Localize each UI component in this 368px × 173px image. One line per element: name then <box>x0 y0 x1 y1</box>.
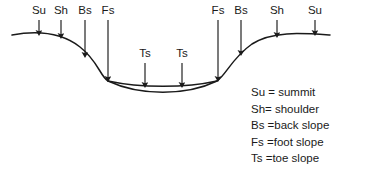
legend-entry: Sh= shoulder <box>251 101 368 118</box>
arrow-annotation-ts-5: Ts <box>176 47 188 85</box>
arrow-label-text: Su <box>32 4 46 16</box>
terrain-surface-line <box>12 33 330 87</box>
arrow-annotation-su-0: Su <box>32 4 46 33</box>
arrow-label-text: Bs <box>78 4 92 16</box>
legend-entry: Bs =back slope <box>251 117 368 134</box>
arrow-annotation-fs-3: Fs <box>102 4 115 79</box>
arrow-label-text: Fs <box>102 4 115 16</box>
legend-entry: Ts =toe slope <box>251 150 368 167</box>
legend-entry: Fs =foot slope <box>251 134 368 151</box>
arrow-label-text: Ts <box>176 47 188 59</box>
arrow-label-text: Ts <box>139 47 151 59</box>
legend-block: Su = summitSh= shoulderBs =back slopeFs … <box>251 84 368 167</box>
arrow-annotation-bs-7: Bs <box>234 4 248 53</box>
arrow-label-text: Sh <box>270 4 284 16</box>
arrow-label-text: Fs <box>212 4 225 16</box>
legend-entry: Su = summit <box>251 84 368 101</box>
arrow-label-text: Bs <box>234 4 248 16</box>
arrow-annotation-sh-8: Sh <box>270 4 284 35</box>
arrow-annotation-su-9: Su <box>308 4 322 33</box>
arrow-annotation-ts-4: Ts <box>139 47 151 85</box>
arrow-annotation-fs-6: Fs <box>212 4 225 79</box>
arrow-annotation-sh-1: Sh <box>54 4 68 36</box>
hillslope-diagram-figure: SuShBsFsTsTsFsBsShSu Su = summitSh= shou… <box>0 0 368 173</box>
arrow-label-text: Sh <box>54 4 68 16</box>
arrow-label-text: Su <box>308 4 322 16</box>
